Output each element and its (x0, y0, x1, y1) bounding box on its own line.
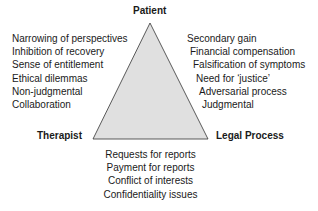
list-item: Payment for reports (98, 161, 203, 174)
list-item: Sense of entitlement (12, 58, 128, 71)
list-item: Conflict of interests (98, 174, 203, 187)
list-item: Judgmental (187, 98, 305, 111)
list-item: Non-judgmental (12, 85, 128, 98)
list-item: Collaboration (12, 98, 128, 111)
list-item: Need for ‘justice’ (187, 72, 305, 85)
list-item: Inhibition of recovery (12, 45, 128, 58)
list-item: Secondary gain (187, 32, 305, 45)
vertex-label-therapist: Therapist (37, 130, 82, 141)
patient-legal-issues-list: Secondary gain Financial compensation Fa… (187, 32, 305, 111)
list-item: Requests for reports (98, 148, 203, 161)
vertex-label-patient: Patient (133, 5, 166, 16)
list-item: Falsification of symptoms (187, 58, 305, 71)
list-item: Financial compensation (187, 45, 305, 58)
patient-therapist-issues-list: Narrowing of perspectives Inhibition of … (12, 32, 128, 111)
therapist-legal-issues-list: Requests for reports Payment for reports… (98, 148, 203, 201)
list-item: Confidentiality issues (98, 188, 203, 201)
list-item: Ethical dilemmas (12, 72, 128, 85)
list-item: Narrowing of perspectives (12, 32, 128, 45)
vertex-label-legal-process: Legal Process (216, 130, 284, 141)
list-item: Adversarial process (187, 85, 305, 98)
